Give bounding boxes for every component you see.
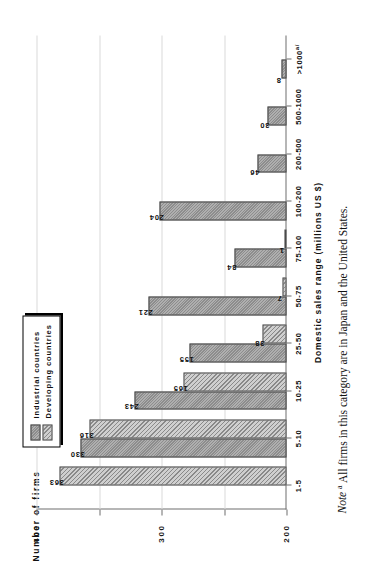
legend-swatch-industrial bbox=[30, 424, 40, 440]
x-axis-tick bbox=[286, 295, 291, 296]
bar-developing-75100[interactable]: 1 bbox=[36, 229, 286, 248]
x-axis-tick bbox=[286, 247, 291, 248]
bar-holder: 38 bbox=[262, 324, 286, 343]
bar-developing-5075[interactable]: 7 bbox=[36, 277, 286, 296]
x-axis-category-label: 75-100 bbox=[293, 235, 302, 262]
figure-canvas: Number of firms 0100200300400 3631-53303… bbox=[0, 0, 369, 567]
note-text: a All firms in this category are in Japa… bbox=[336, 205, 348, 488]
legend-item-developing: Developing countries bbox=[42, 324, 52, 440]
bar-rect[interactable] bbox=[159, 201, 287, 220]
bar-rect[interactable] bbox=[134, 391, 286, 410]
x-axis-category-label: 1-5 bbox=[293, 479, 302, 492]
bar-industrial-100200[interactable]: 204 bbox=[36, 201, 286, 220]
y-axis-tick: 300 bbox=[99, 509, 100, 515]
x-axis-category-label: 200-500 bbox=[293, 138, 302, 170]
bar-developing-15[interactable]: 363 bbox=[36, 466, 286, 485]
bar-rect[interactable] bbox=[262, 324, 286, 343]
bar-value-label: 8 bbox=[276, 75, 281, 84]
bar-industrial-510[interactable]: 330 bbox=[36, 438, 286, 457]
bar-holder: 7 bbox=[282, 277, 286, 296]
x-axis-category-label: 50-75 bbox=[293, 285, 302, 307]
bar-group: 1553825-50 bbox=[36, 324, 286, 362]
bar-developing-510[interactable]: 316 bbox=[36, 419, 286, 438]
bar-rect[interactable] bbox=[281, 59, 286, 78]
x-axis-title: Domestic sales range (millions US $) bbox=[312, 35, 322, 509]
bar-holder: 330 bbox=[80, 438, 286, 457]
x-axis-tick bbox=[286, 58, 291, 59]
bar-rect[interactable] bbox=[183, 372, 286, 391]
plot-area: 0100200300400 3631-53303165-1024316510-2… bbox=[36, 35, 286, 509]
bar-rect[interactable] bbox=[59, 466, 286, 485]
bar-industrial-1025[interactable]: 243 bbox=[36, 391, 286, 410]
bar-group: 3631-5 bbox=[36, 466, 286, 504]
bar-developing-1000[interactable] bbox=[36, 40, 286, 59]
bar-developing-5001000[interactable] bbox=[36, 87, 286, 106]
bar-group: 30500-1000 bbox=[36, 87, 286, 125]
bar-rect[interactable] bbox=[267, 106, 286, 125]
bar-group: 221750-75 bbox=[36, 277, 286, 315]
y-axis-tick: 100 bbox=[224, 509, 225, 515]
legend-label-industrial: Industrial countries bbox=[31, 330, 40, 418]
bar-industrial-200500[interactable]: 46 bbox=[36, 154, 286, 173]
bar-rect[interactable] bbox=[89, 419, 287, 438]
figure-note: Note a All firms in this category are in… bbox=[334, 13, 350, 513]
bar-value-label: 221 bbox=[138, 307, 153, 316]
bar-value-label: 204 bbox=[148, 213, 163, 222]
bar-value-label: 155 bbox=[179, 355, 194, 364]
bar-group: 24316510-25 bbox=[36, 372, 286, 410]
bar-developing-100200[interactable] bbox=[36, 182, 286, 201]
bar-holder: 155 bbox=[189, 343, 286, 362]
bar-value-label: 165 bbox=[173, 383, 188, 392]
x-axis-category-label: >1000a/ bbox=[293, 44, 304, 74]
bar-industrial-15[interactable] bbox=[36, 485, 286, 504]
x-axis-tick bbox=[286, 153, 291, 154]
bar-holder: 46 bbox=[257, 154, 286, 173]
bar-industrial-5001000[interactable]: 30 bbox=[36, 106, 286, 125]
bar-developing-1025[interactable]: 165 bbox=[36, 372, 286, 391]
y-axis-tick: 200 bbox=[161, 509, 162, 515]
bar-industrial-75100[interactable]: 84 bbox=[36, 248, 286, 267]
bar-holder: 1 bbox=[284, 229, 286, 248]
y-axis-tick: 400 bbox=[36, 509, 37, 515]
bar-rect[interactable] bbox=[148, 296, 286, 315]
x-axis-category-label: 100-200 bbox=[293, 185, 302, 217]
bar-rect[interactable] bbox=[257, 154, 286, 173]
x-axis-tick bbox=[286, 105, 291, 106]
bar-rect[interactable] bbox=[80, 438, 286, 457]
bar-value-label: 1 bbox=[279, 246, 284, 255]
bar-value-label: 330 bbox=[69, 450, 84, 459]
y-axis-tick: 0 bbox=[286, 509, 287, 515]
x-axis-tick bbox=[286, 200, 291, 201]
bar-group: 84175-100 bbox=[36, 229, 286, 267]
bar-rect[interactable] bbox=[282, 277, 286, 296]
bar-holder: 204 bbox=[159, 201, 287, 220]
bar-value-label: 46 bbox=[249, 168, 259, 177]
bar-developing-2550[interactable]: 38 bbox=[36, 324, 286, 343]
legend-label-developing: Developing countries bbox=[43, 324, 52, 418]
bar-developing-200500[interactable] bbox=[36, 135, 286, 154]
bar-holder: 221 bbox=[148, 296, 286, 315]
bar-value-label: 30 bbox=[259, 120, 269, 129]
chart-legend: Industrial countries Developing countrie… bbox=[22, 315, 60, 447]
y-axis-tick-label: 400 bbox=[32, 524, 41, 542]
bar-value-label: 7 bbox=[276, 293, 281, 302]
note-word: Note bbox=[336, 491, 348, 513]
y-axis-tick-label: 200 bbox=[282, 524, 291, 542]
x-axis-tick bbox=[286, 484, 291, 485]
bar-holder: 8 bbox=[281, 59, 286, 78]
bar-industrial-5075[interactable]: 221 bbox=[36, 296, 286, 315]
bar-value-label: 38 bbox=[254, 338, 264, 347]
bar-rect[interactable] bbox=[284, 229, 286, 248]
bar-industrial-2550[interactable]: 155 bbox=[36, 343, 286, 362]
x-axis-category-label: 500-1000 bbox=[293, 88, 302, 125]
bar-industrial-1000[interactable]: 8 bbox=[36, 59, 286, 78]
bar-group: 46200-500 bbox=[36, 135, 286, 173]
category-footnote-marker: a/ bbox=[293, 44, 299, 50]
bar-holder: 243 bbox=[134, 391, 286, 410]
bar-holder: 316 bbox=[89, 419, 287, 438]
bar-value-label: 316 bbox=[78, 431, 93, 440]
x-axis-tick bbox=[286, 390, 291, 391]
x-axis-category-label: 25-50 bbox=[293, 332, 302, 354]
bar-rect[interactable] bbox=[189, 343, 286, 362]
bar-group: 8>1000a/ bbox=[36, 40, 286, 78]
